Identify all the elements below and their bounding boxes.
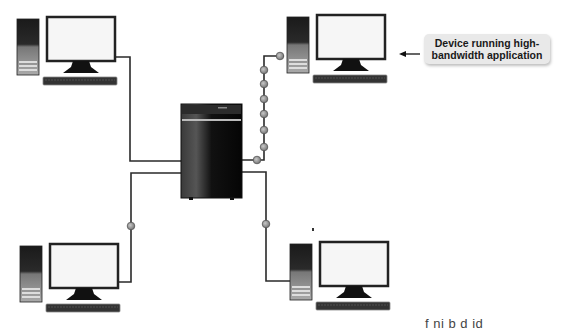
- computer-bottom-left-icon: [20, 244, 120, 312]
- link-top-left: [113, 57, 182, 161]
- link-bottom-left: [116, 173, 182, 282]
- packet-icon: [262, 220, 270, 228]
- packet-icon: [260, 80, 268, 88]
- packet-icon: [260, 143, 268, 151]
- packet-icon: [276, 52, 284, 60]
- computer-top-right-icon: [287, 15, 387, 83]
- cutoff-caption: f ni b d id: [425, 316, 483, 331]
- computer-bottom-right-icon: [290, 242, 390, 310]
- callout-line-1: Device running high-: [432, 37, 543, 49]
- callout-line-2: bandwidth application: [432, 49, 543, 61]
- packet-icon: [260, 110, 268, 118]
- packet-icon: [253, 156, 261, 164]
- packet-icon: [260, 95, 268, 103]
- high-bandwidth-callout: Device running high- bandwidth applicati…: [424, 34, 550, 64]
- computer-top-left-icon: [17, 17, 117, 85]
- packet-icon: [127, 222, 135, 230]
- packet-icon: [260, 126, 268, 134]
- packet-icon: [260, 66, 268, 74]
- arrow-left-icon: [399, 51, 420, 57]
- server-icon: [181, 104, 242, 200]
